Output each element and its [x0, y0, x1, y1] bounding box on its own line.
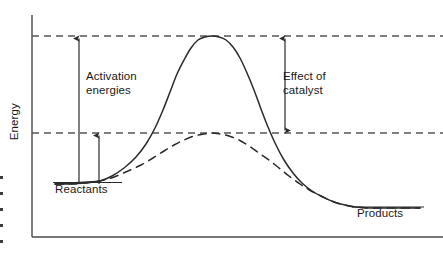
page-edge-mark — [0, 192, 3, 195]
reactants-label: Reactants — [55, 183, 108, 197]
axes-group — [32, 15, 443, 237]
level-baselines-group — [53, 181, 424, 207]
products-label: Products — [357, 207, 403, 221]
effect-of-catalyst-label: Effect of catalyst — [283, 70, 326, 97]
page-edge-mark — [0, 176, 3, 179]
page-edge-mark — [0, 208, 3, 211]
catalyzed-pathway-curve — [55, 133, 420, 208]
annotation-arrows-group — [79, 39, 285, 185]
page-edge-mark — [0, 240, 3, 243]
page-edge-mark — [0, 224, 3, 227]
energy-profile-figure: Activation energies Effect of catalyst R… — [0, 0, 443, 257]
y-axis-label: Energy — [8, 94, 22, 150]
activation-energies-label: Activation energies — [86, 70, 137, 97]
